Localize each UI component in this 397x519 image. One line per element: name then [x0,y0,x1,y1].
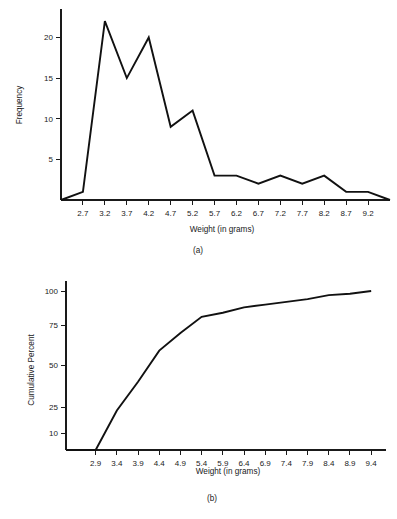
y-tick-label: 15 [44,74,53,83]
y-tick-label: 10 [44,115,53,124]
x-tick-label: 3.2 [99,209,111,218]
x-tick-label: 3.7 [121,209,133,218]
y-tick-label: 75 [49,321,58,330]
x-tick-label: 6.9 [260,459,272,468]
x-tick-label: 7.2 [275,209,287,218]
x-tick-label: 2.9 [90,459,102,468]
x-tick-label: 4.2 [143,209,155,218]
x-tick-label: 5.2 [187,209,199,218]
chart-b-x-ticks [96,450,371,455]
chart-b-y-tick-labels: 10255075100 [45,287,59,438]
x-tick-label: 8.4 [323,459,335,468]
figure-root: 5101520 2.73.23.74.24.75.25.76.26.77.27.… [0,0,397,519]
chart-a-svg: 5101520 2.73.23.74.24.75.25.76.26.77.27.… [0,0,397,260]
x-tick-label: 3.4 [111,459,123,468]
x-tick-label: 8.2 [319,209,331,218]
x-tick-label: 8.9 [344,459,356,468]
x-tick-label: 9.4 [366,459,378,468]
x-tick-label: 8.7 [341,209,353,218]
x-tick-label: 4.9 [175,459,187,468]
x-tick-label: 9.2 [363,209,375,218]
y-tick-label: 5 [49,155,54,164]
chart-b-y-ticks [61,291,66,433]
chart-a-x-axis-title: Weight (in grams) [190,225,255,234]
chart-b-y-axis-title: Cumulative Percent [27,334,36,406]
chart-a-y-axis-title: Frequency [15,85,24,125]
y-tick-label: 50 [49,361,58,370]
chart-a-x-ticks [83,200,368,205]
chart-a-frequency-polyline [61,21,390,200]
chart-a-panel-caption: (a) [193,246,203,255]
chart-a-y-ticks [56,37,61,159]
y-tick-label: 10 [49,429,58,438]
y-tick-label: 100 [45,287,59,296]
chart-b-panel-caption: (b) [207,494,217,503]
x-tick-label: 6.2 [231,209,243,218]
x-tick-label: 4.7 [165,209,177,218]
chart-panel-a: 5101520 2.73.23.74.24.75.25.76.26.77.27.… [0,0,397,260]
x-tick-label: 6.7 [253,209,265,218]
x-tick-label: 3.9 [132,459,144,468]
chart-b-svg: 10255075100 2.93.43.94.44.95.45.96.46.97… [0,260,397,519]
x-tick-label: 7.7 [297,209,309,218]
y-tick-label: 25 [49,403,58,412]
x-tick-label: 7.9 [302,459,314,468]
x-tick-label: 4.4 [154,459,166,468]
x-tick-label: 7.4 [281,459,293,468]
x-tick-label: 5.7 [209,209,221,218]
chart-panel-b: 10255075100 2.93.43.94.44.95.45.96.46.97… [0,260,397,519]
chart-a-x-tick-labels: 2.73.23.74.24.75.25.76.26.77.27.78.28.79… [77,209,374,218]
chart-b-x-axis-title: Weight (in grams) [196,467,261,476]
x-tick-label: 2.7 [77,209,89,218]
chart-b-cumulative-percent-polyline [66,291,371,450]
chart-a-y-tick-labels: 5101520 [44,33,53,164]
y-tick-label: 20 [44,33,53,42]
